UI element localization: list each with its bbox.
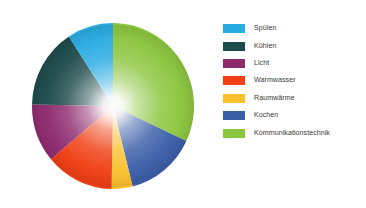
pie-chart-svg	[32, 23, 194, 189]
legend-item[interactable]: Kühlen	[223, 37, 365, 54]
legend-item-label: Kommunikationstechnik	[254, 129, 330, 138]
legend-color-swatch	[223, 76, 245, 85]
legend-item-label: Kühlen	[254, 42, 276, 51]
chart-page: SpülenKühlenLichtWarmwasserRaumwärmeKoch…	[0, 0, 366, 208]
legend-item-label: Kochen	[254, 111, 278, 120]
legend-color-swatch	[223, 129, 245, 138]
legend-item[interactable]: Kommunikationstechnik	[223, 124, 365, 141]
legend-color-swatch	[223, 42, 245, 51]
legend-item-label: Raumwärme	[254, 94, 295, 103]
legend-item[interactable]: Spülen	[223, 20, 365, 37]
pie-edge-shade	[32, 25, 194, 187]
legend-item-label: Licht	[254, 59, 269, 68]
legend-item[interactable]: Raumwärme	[223, 90, 365, 107]
legend-color-swatch	[223, 59, 245, 68]
legend-color-swatch	[223, 24, 245, 33]
legend-item[interactable]: Warmwasser	[223, 72, 365, 89]
legend-item-label: Warmwasser	[254, 76, 296, 85]
legend-item[interactable]: Kochen	[223, 107, 365, 124]
legend-color-swatch	[223, 94, 245, 103]
pie-chart	[32, 23, 194, 189]
chart-legend: SpülenKühlenLichtWarmwasserRaumwärmeKoch…	[223, 20, 365, 142]
legend-color-swatch	[223, 111, 245, 120]
legend-item[interactable]: Licht	[223, 55, 365, 72]
legend-item-label: Spülen	[254, 24, 276, 33]
